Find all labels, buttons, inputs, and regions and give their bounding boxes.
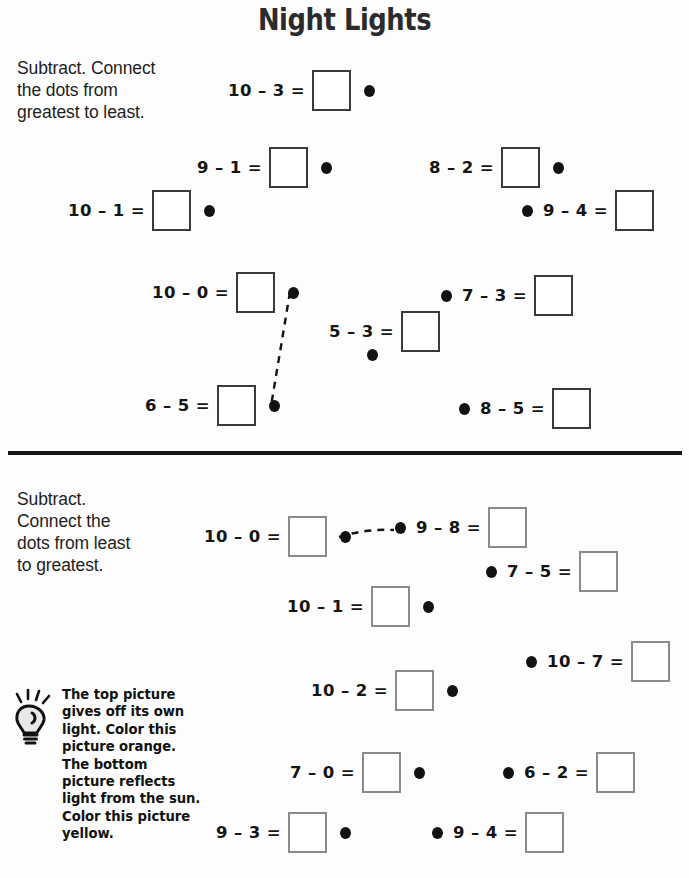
equation-text: 9 – 1 = bbox=[197, 158, 262, 177]
problem-row: 8 – 5 = bbox=[459, 388, 591, 429]
problem-row: 10 – 1 = bbox=[68, 190, 215, 231]
connect-dot[interactable] bbox=[395, 522, 406, 534]
problem-row: 9 – 1 = bbox=[197, 147, 332, 188]
section-divider bbox=[8, 451, 682, 455]
coloring-note-text: The top picture gives off its own light.… bbox=[62, 686, 203, 843]
lightbulb-icon bbox=[13, 688, 59, 746]
equation-text: 8 – 5 = bbox=[480, 399, 545, 418]
connect-dot[interactable] bbox=[486, 566, 497, 578]
connect-dot[interactable] bbox=[459, 403, 470, 415]
equation-text: 10 – 3 = bbox=[228, 81, 305, 100]
problem-row: 6 – 5 = bbox=[145, 385, 280, 426]
connect-dot[interactable] bbox=[522, 205, 533, 217]
connect-dot[interactable] bbox=[553, 162, 564, 174]
answer-box[interactable] bbox=[401, 311, 440, 352]
problem-row: 5 – 3 = bbox=[329, 311, 440, 352]
answer-box[interactable] bbox=[312, 70, 351, 111]
connect-dot[interactable] bbox=[447, 685, 458, 697]
equation-text: 10 – 2 = bbox=[311, 681, 388, 700]
problem-row: 8 – 2 = bbox=[429, 147, 564, 188]
answer-box[interactable] bbox=[525, 812, 564, 853]
connect-dot[interactable] bbox=[526, 656, 537, 668]
equation-text: 9 – 8 = bbox=[416, 518, 481, 537]
answer-box[interactable] bbox=[534, 275, 573, 316]
answer-box[interactable] bbox=[152, 190, 191, 231]
equation-text: 10 – 1 = bbox=[68, 201, 145, 220]
problem-row: 10 – 0 = bbox=[204, 516, 351, 557]
equation-text: 10 – 1 = bbox=[287, 597, 364, 616]
equation-text: 9 – 3 = bbox=[216, 823, 281, 842]
instructions-top-section: Subtract. Connect the dots from greatest… bbox=[17, 57, 217, 123]
equation-text: 10 – 7 = bbox=[547, 652, 624, 671]
connect-dot[interactable] bbox=[503, 767, 514, 779]
answer-box[interactable] bbox=[269, 147, 308, 188]
page-title: Night Lights bbox=[48, 2, 641, 37]
problem-row: 9 – 4 = bbox=[522, 190, 654, 231]
connect-dot[interactable] bbox=[432, 827, 443, 839]
answer-box[interactable] bbox=[236, 272, 275, 313]
answer-box[interactable] bbox=[579, 551, 618, 592]
problem-row: 10 – 1 = bbox=[287, 586, 434, 627]
problem-row: 7 – 3 = bbox=[441, 275, 573, 316]
problem-row: 10 – 2 = bbox=[311, 670, 458, 711]
answer-box[interactable] bbox=[501, 147, 540, 188]
answer-box[interactable] bbox=[371, 586, 410, 627]
coloring-note: The top picture gives off its own light.… bbox=[13, 686, 203, 843]
equation-text: 8 – 2 = bbox=[429, 158, 494, 177]
problem-row: 10 – 0 = bbox=[152, 272, 299, 313]
problem-row: 9 – 4 = bbox=[432, 812, 564, 853]
connect-dot[interactable] bbox=[441, 290, 452, 302]
equation-text: 10 – 0 = bbox=[204, 527, 281, 546]
connect-dot[interactable] bbox=[340, 531, 351, 543]
problem-row: 7 – 0 = bbox=[290, 752, 425, 793]
equation-text: 5 – 3 = bbox=[329, 322, 394, 341]
problem-row: 9 – 8 = bbox=[395, 507, 527, 548]
connect-dot[interactable] bbox=[321, 162, 332, 174]
equation-text: 9 – 4 = bbox=[543, 201, 608, 220]
answer-box[interactable] bbox=[395, 670, 434, 711]
equation-text: 6 – 5 = bbox=[145, 396, 210, 415]
answer-box[interactable] bbox=[615, 190, 654, 231]
answer-box[interactable] bbox=[552, 388, 591, 429]
equation-text: 6 – 2 = bbox=[524, 763, 589, 782]
problem-row: 6 – 2 = bbox=[503, 752, 635, 793]
equation-text: 10 – 0 = bbox=[152, 283, 229, 302]
answer-box[interactable] bbox=[217, 385, 256, 426]
connect-dot[interactable] bbox=[288, 287, 299, 299]
equation-text: 7 – 3 = bbox=[462, 286, 527, 305]
equation-text: 7 – 0 = bbox=[290, 763, 355, 782]
connect-dot[interactable] bbox=[414, 767, 425, 779]
problem-row: 10 – 7 = bbox=[526, 641, 670, 682]
connect-dot[interactable] bbox=[204, 205, 215, 217]
answer-box[interactable] bbox=[631, 641, 670, 682]
instructions-bottom-section: Subtract. Connect the dots from least to… bbox=[17, 488, 192, 576]
connect-dot[interactable] bbox=[364, 85, 375, 97]
worksheet-page: Night Lights Subtract. Connect the dots … bbox=[0, 0, 689, 878]
connect-dot[interactable] bbox=[269, 400, 280, 412]
connect-dot[interactable] bbox=[423, 601, 434, 613]
answer-box[interactable] bbox=[488, 507, 527, 548]
equation-text: 7 – 5 = bbox=[507, 562, 572, 581]
answer-box[interactable] bbox=[596, 752, 635, 793]
problem-row: 7 – 5 = bbox=[486, 551, 618, 592]
connect-dot[interactable] bbox=[340, 827, 351, 839]
problem-row: 10 – 3 = bbox=[228, 70, 375, 111]
answer-box[interactable] bbox=[288, 516, 327, 557]
answer-box[interactable] bbox=[288, 812, 327, 853]
equation-text: 9 – 4 = bbox=[453, 823, 518, 842]
connect-dot[interactable] bbox=[367, 349, 378, 361]
answer-box[interactable] bbox=[362, 752, 401, 793]
problem-row: 9 – 3 = bbox=[216, 812, 351, 853]
